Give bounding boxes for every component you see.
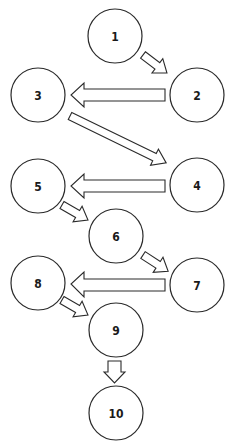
node-7-label: 7 [193, 279, 201, 293]
node-4: 4 [170, 158, 224, 212]
flow-diagram: 1 2 3 4 5 6 7 8 9 10 [0, 0, 233, 444]
node-8: 8 [11, 256, 65, 310]
arrow-1-to-2 [138, 48, 173, 80]
arrow-4-to-5 [71, 174, 165, 198]
node-7: 7 [170, 258, 224, 312]
node-5: 5 [11, 159, 65, 213]
node-3-label: 3 [34, 89, 42, 103]
node-2: 2 [170, 68, 224, 122]
arrow-9-to-10 [104, 361, 125, 383]
node-6-label: 6 [112, 230, 120, 244]
node-9: 9 [89, 303, 143, 357]
node-5-label: 5 [34, 180, 42, 194]
node-6: 6 [89, 209, 143, 263]
node-2-label: 2 [193, 89, 201, 103]
arrow-8-to-9 [58, 292, 93, 323]
arrow-6-to-7 [138, 247, 173, 278]
arrow-2-to-3 [71, 83, 165, 107]
node-8-label: 8 [34, 277, 42, 291]
arrow-7-to-8 [71, 272, 165, 297]
node-1-label: 1 [111, 30, 119, 44]
node-9-label: 9 [112, 324, 120, 338]
node-3: 3 [11, 68, 65, 122]
node-4-label: 4 [193, 179, 201, 193]
node-10: 10 [89, 386, 143, 440]
arrow-3-to-4 [66, 108, 170, 171]
arrow-5-to-6 [58, 197, 93, 228]
node-10-label: 10 [108, 407, 123, 421]
node-1: 1 [88, 9, 142, 63]
